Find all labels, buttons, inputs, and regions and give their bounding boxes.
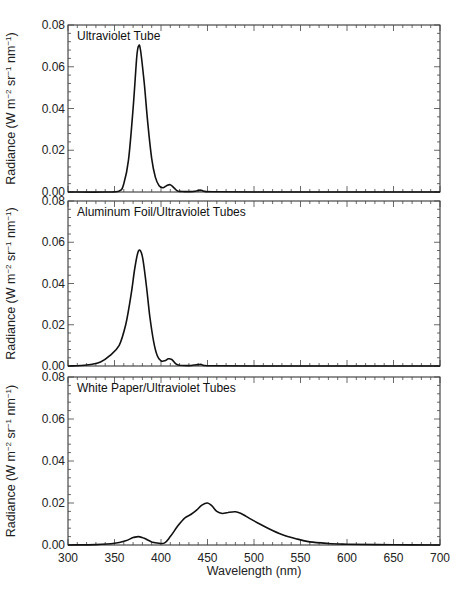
panel-3-y-axis-label: Radiance (W m−2 sr−1 nm−1) <box>4 385 19 537</box>
panel-3-frame <box>68 377 440 545</box>
x-tick-label: 600 <box>337 551 357 565</box>
panel-2-spectrum-line <box>68 250 440 366</box>
y-tick-label: 0.02 <box>42 143 66 157</box>
y-tick-label: 0.00 <box>42 538 66 552</box>
panel-2-frame <box>68 201 440 366</box>
y-tick-label: 0.06 <box>42 60 66 74</box>
panel-1-y-axis-label: Radiance (W m−2 sr−1 nm−1) <box>4 32 19 184</box>
y-tick-label: 0.08 <box>42 370 66 384</box>
panel-2-y-axis-label: Radiance (W m−2 sr−1 nm−1) <box>4 207 19 359</box>
panel-3-title: White Paper/Ultraviolet Tubes <box>77 381 236 395</box>
y-tick-label: 0.08 <box>42 194 66 208</box>
x-tick-label: 450 <box>197 551 217 565</box>
x-tick-label: 300 <box>58 551 78 565</box>
x-tick-label: 500 <box>244 551 264 565</box>
x-tick-label: 400 <box>151 551 171 565</box>
x-tick-label: 700 <box>430 551 450 565</box>
x-tick-label: 350 <box>104 551 124 565</box>
y-tick-label: 0.04 <box>42 102 66 116</box>
y-tick-label: 0.02 <box>42 318 66 332</box>
panel-1-title: Ultraviolet Tube <box>77 29 161 43</box>
panel-1-spectrum-line <box>68 45 440 192</box>
y-tick-label: 0.02 <box>42 496 66 510</box>
x-tick-label: 650 <box>383 551 403 565</box>
x-tick-label: 550 <box>290 551 310 565</box>
y-tick-label: 0.04 <box>42 277 66 291</box>
y-tick-label: 0.08 <box>42 18 66 32</box>
y-tick-label: 0.04 <box>42 454 66 468</box>
y-tick-label: 0.06 <box>42 412 66 426</box>
x-axis-label: Wavelength (nm) <box>207 564 302 578</box>
panel-3-spectrum-line <box>68 503 440 545</box>
spectra-chart: 0.000.020.040.060.08Ultraviolet TubeRadi… <box>0 0 463 593</box>
y-tick-label: 0.06 <box>42 235 66 249</box>
panel-1-frame <box>68 25 440 192</box>
panel-2-title: Aluminum Foil/Ultraviolet Tubes <box>77 205 246 219</box>
